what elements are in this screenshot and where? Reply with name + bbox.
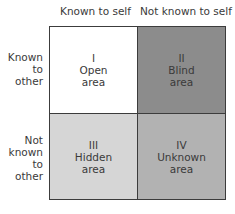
quadrant-suffix: area xyxy=(170,163,193,175)
quadrant-hidden-area: III Hidden area xyxy=(50,113,137,199)
row-header-line: to xyxy=(8,63,43,75)
quadrant-numeral: II xyxy=(178,52,184,64)
quadrant-open-area: I Open area xyxy=(50,27,137,113)
row-header-not-known-to-other: Not known to other xyxy=(9,134,43,182)
row-header-line: known xyxy=(9,146,43,158)
quadrant-name: Blind xyxy=(168,64,194,76)
row-header-known-to-other: Known to other xyxy=(8,51,43,87)
quadrant-name: Unknown xyxy=(157,151,206,163)
row-header-line: other xyxy=(8,75,43,87)
quadrant-blind-area: II Blind area xyxy=(137,27,225,113)
column-header-known-to-self: Known to self xyxy=(60,5,130,17)
quadrant-suffix: area xyxy=(170,76,193,88)
quadrant-numeral: IV xyxy=(176,139,186,151)
quadrant-numeral: III xyxy=(89,139,98,151)
quadrant-name: Hidden xyxy=(75,151,112,163)
row-header-line: other xyxy=(9,170,43,182)
quadrant-numeral: I xyxy=(92,52,95,64)
row-header-line: Known xyxy=(8,51,43,63)
johari-window-grid: I Open area II Blind area III Hidden are… xyxy=(49,26,226,200)
row-header-line: Not xyxy=(9,134,43,146)
quadrant-suffix: area xyxy=(82,76,105,88)
row-header-line: to xyxy=(9,158,43,170)
quadrant-name: Open xyxy=(79,64,107,76)
quadrant-suffix: area xyxy=(82,163,105,175)
column-header-not-known-to-self: Not known to self xyxy=(140,5,230,17)
quadrant-unknown-area: IV Unknown area xyxy=(137,113,225,199)
